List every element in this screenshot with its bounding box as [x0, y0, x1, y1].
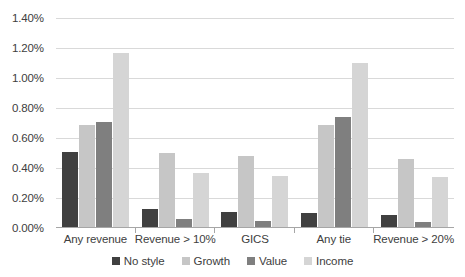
x-axis-category-label: Any revenue — [56, 233, 135, 245]
bar[interactable] — [221, 212, 237, 229]
bar[interactable] — [432, 177, 448, 228]
legend-label: Value — [259, 255, 287, 267]
legend-item[interactable]: No style — [112, 255, 165, 267]
x-axis-category-label: Revenue > 20% — [373, 233, 454, 245]
legend-swatch-icon — [304, 257, 312, 265]
y-axis-tick-label: 1.00% — [12, 72, 44, 84]
bar[interactable] — [193, 173, 209, 229]
bar[interactable] — [398, 159, 414, 228]
bar[interactable] — [238, 156, 254, 228]
y-axis-labels: 0.00%0.20%0.40%0.60%0.80%1.00%1.20%1.40% — [0, 18, 50, 228]
legend-label: Growth — [194, 255, 230, 267]
bar-groups — [56, 18, 454, 228]
bar-group — [136, 18, 216, 228]
chart-legend: No styleGrowthValueIncome — [0, 255, 465, 267]
x-axis-line — [56, 227, 454, 228]
bar[interactable] — [96, 122, 112, 229]
bar-group — [374, 18, 454, 228]
legend-item[interactable]: Growth — [182, 255, 230, 267]
y-axis-tick-label: 0.80% — [12, 102, 44, 114]
legend-swatch-icon — [182, 257, 190, 265]
legend-swatch-icon — [247, 257, 255, 265]
plot-area — [56, 18, 454, 228]
bar[interactable] — [352, 63, 368, 228]
bar[interactable] — [79, 125, 95, 229]
y-axis-tick-label: 1.20% — [12, 42, 44, 54]
bar-group — [295, 18, 375, 228]
bar[interactable] — [335, 117, 351, 228]
bar[interactable] — [318, 125, 334, 229]
bar[interactable] — [159, 153, 175, 228]
y-axis-tick-label: 1.40% — [12, 12, 44, 24]
y-axis-tick-label: 0.20% — [12, 192, 44, 204]
bar[interactable] — [381, 215, 397, 229]
legend-label: No style — [124, 255, 165, 267]
bar[interactable] — [62, 152, 78, 229]
bar-group — [56, 18, 136, 228]
bar[interactable] — [113, 53, 129, 229]
legend-item[interactable]: Income — [304, 255, 353, 267]
x-axis-labels: Any revenueRevenue > 10%GICSAny tieReven… — [56, 233, 454, 245]
y-axis-tick-label: 0.40% — [12, 162, 44, 174]
y-axis-tick-label: 0.00% — [12, 222, 44, 234]
bar[interactable] — [301, 213, 317, 228]
bar-chart: 0.00%0.20%0.40%0.60%0.80%1.00%1.20%1.40%… — [0, 0, 465, 277]
legend-label: Income — [316, 255, 353, 267]
legend-swatch-icon — [112, 257, 120, 265]
x-axis-category-label: Any tie — [294, 233, 373, 245]
x-axis-category-label: GICS — [216, 233, 295, 245]
legend-item[interactable]: Value — [247, 255, 287, 267]
y-axis-tick-label: 0.60% — [12, 132, 44, 144]
bar[interactable] — [272, 176, 288, 229]
x-axis-category-label: Revenue > 10% — [135, 233, 216, 245]
bar[interactable] — [142, 209, 158, 229]
bar-group — [215, 18, 295, 228]
